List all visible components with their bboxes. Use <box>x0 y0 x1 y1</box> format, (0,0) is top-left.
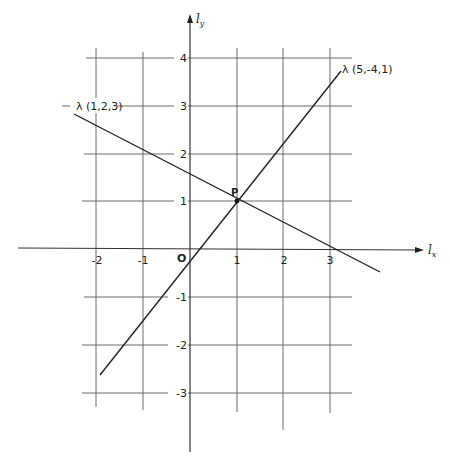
y-tick-label: 4 <box>180 52 187 65</box>
y-tick-label: -3 <box>176 387 187 400</box>
y-tick-label: 3 <box>180 100 187 113</box>
x-axis-arrow-icon <box>415 247 424 253</box>
x-tick-label: -1 <box>138 254 149 267</box>
x-tick-label: 3 <box>327 254 334 267</box>
x-tick-label: -2 <box>92 254 103 267</box>
y-tick-label: -2 <box>176 339 187 352</box>
y-tick-label: 1 <box>180 195 187 208</box>
coordinate-diagram: ly lx -2 -1 1 2 3 4 3 2 1 -1 -2 -3 O λ (… <box>0 0 450 467</box>
x-tick-label: 1 <box>234 254 241 267</box>
intersection-label: P <box>231 187 238 198</box>
line-lambda-5-neg4-1 <box>100 71 341 375</box>
y-axis-label: ly <box>196 12 205 28</box>
intersection-point <box>235 199 240 204</box>
x-tick-label: 2 <box>281 254 288 267</box>
y-axis-arrow-icon <box>187 14 193 23</box>
y-tick-label: 2 <box>180 148 187 161</box>
y-tick-label: -1 <box>176 291 187 304</box>
line-label-lambda-5-neg4-1: λ (5,-4,1) <box>342 63 393 76</box>
origin-label: O <box>177 252 186 265</box>
x-tick-labels: -2 -1 1 2 3 <box>92 254 334 267</box>
x-axis-label: lx <box>428 243 437 259</box>
axes <box>18 14 424 452</box>
line-label-lambda-1-2-3: λ (1,2,3) <box>76 100 123 113</box>
x-axis <box>18 248 418 250</box>
